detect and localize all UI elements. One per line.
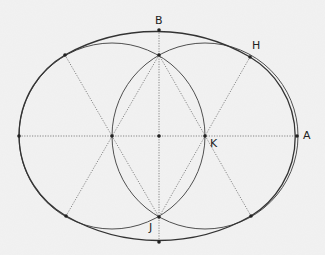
point-upper-left	[63, 53, 67, 57]
point-J	[157, 215, 161, 219]
oval-construction-diagram: B H A K J	[0, 0, 325, 255]
label-K: K	[210, 138, 217, 149]
label-B: B	[155, 15, 163, 26]
point-H	[248, 55, 252, 59]
point-left	[17, 134, 21, 138]
diagram-svg	[0, 0, 325, 255]
point-O	[157, 134, 161, 138]
label-J: J	[149, 222, 152, 233]
point-K	[203, 134, 207, 138]
point-B	[157, 28, 161, 32]
point-lower-right	[249, 214, 253, 218]
point-bottom	[157, 240, 161, 244]
label-A: A	[303, 130, 311, 141]
point-top-center	[157, 53, 161, 57]
point-A	[295, 134, 299, 138]
point-lower-left	[64, 214, 68, 218]
label-H: H	[252, 40, 260, 51]
paper-texture	[0, 0, 325, 255]
point-left-center	[110, 134, 114, 138]
